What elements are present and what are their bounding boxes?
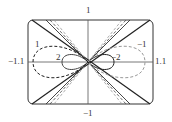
tick-label-top: 1 (86, 6, 91, 15)
curve-label-1: 1 (35, 40, 40, 49)
curve-label-minus2: −2 (111, 53, 121, 62)
tick-label-bottom: −1 (83, 109, 93, 118)
curve-label-2: 2 (56, 53, 61, 62)
tick-label-left: −1.1 (8, 57, 24, 66)
curve-family-plot (0, 0, 172, 122)
tick-label-right: 1.1 (155, 57, 166, 66)
curve-label-minus1: −1 (137, 40, 147, 49)
